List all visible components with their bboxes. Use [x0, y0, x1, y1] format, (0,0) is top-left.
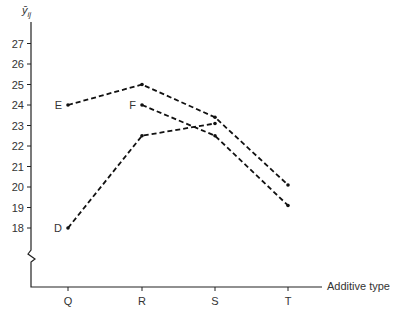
axes: [28, 22, 322, 287]
series-f: F: [129, 99, 290, 207]
axis-lines: [28, 22, 322, 287]
y-tick-label: 25: [12, 79, 24, 91]
data-point: [213, 122, 217, 126]
data-point: [286, 183, 290, 187]
series-label: E: [55, 99, 62, 111]
x-axis-ticks: QRST: [64, 287, 292, 307]
x-tick-label: S: [211, 295, 218, 307]
y-tick-label: 21: [12, 161, 24, 173]
y-axis-title: ȳij: [21, 4, 31, 19]
series-e: E: [55, 83, 290, 187]
data-point: [286, 204, 290, 208]
y-tick-label: 23: [12, 120, 24, 132]
y-tick-label: 24: [12, 99, 24, 111]
y-axis-ticks: 18192021222324252627: [12, 38, 31, 235]
series-label: F: [129, 99, 136, 111]
y-tick-label: 22: [12, 140, 24, 152]
line-chart: 18192021222324252627 QRST DEF ȳij Additi…: [0, 0, 400, 317]
series-lines: DEF: [54, 83, 290, 234]
y-tick-label: 27: [12, 38, 24, 50]
y-tick-label: 19: [12, 202, 24, 214]
y-tick-label: 20: [12, 181, 24, 193]
y-tick-label: 26: [12, 58, 24, 70]
data-point: [140, 103, 144, 107]
data-point: [66, 103, 70, 107]
data-point: [213, 134, 217, 138]
data-point: [213, 116, 217, 120]
data-point: [66, 226, 70, 230]
series-label: D: [54, 222, 62, 234]
series-d: D: [54, 122, 217, 234]
x-tick-label: Q: [64, 295, 73, 307]
x-axis-title: Additive type: [327, 280, 390, 292]
y-tick-label: 18: [12, 222, 24, 234]
x-tick-label: R: [138, 295, 146, 307]
x-tick-label: T: [285, 295, 292, 307]
data-point: [140, 134, 144, 138]
data-point: [140, 83, 144, 87]
